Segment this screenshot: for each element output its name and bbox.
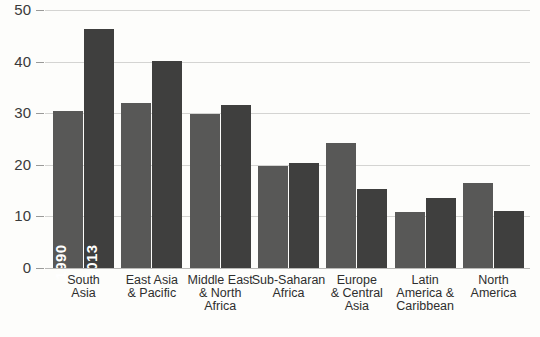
- bar-group: [326, 10, 387, 268]
- bar-group: [121, 10, 182, 268]
- y-axis-tick-label: 0: [0, 260, 31, 275]
- bar-1990: [121, 103, 151, 268]
- bar-chart: 0102030405019902013 SouthAsiaEast Asia& …: [0, 0, 540, 337]
- plot-area: 0102030405019902013: [45, 10, 530, 268]
- y-tick-mark-0: [36, 268, 44, 269]
- bar-group: [258, 10, 319, 268]
- y-tick-mark-50: [36, 10, 44, 11]
- bar-group: 19902013: [53, 10, 114, 268]
- y-axis-tick-label: 30: [0, 105, 31, 120]
- y-tick-mark-20: [36, 165, 44, 166]
- bar-1990: [326, 143, 356, 268]
- bar-1990: 1990: [53, 111, 83, 268]
- category-label-line: Caribbean: [370, 300, 480, 313]
- category-label-line: America: [439, 287, 540, 300]
- y-tick-mark-10: [36, 216, 44, 217]
- bar-1990: [258, 166, 288, 268]
- x-axis-line: [45, 268, 530, 269]
- y-axis-tick-label: 50: [0, 2, 31, 17]
- y-tick-mark-30: [36, 113, 44, 114]
- bar-2013: [221, 105, 251, 268]
- bar-group: [190, 10, 251, 268]
- bar-2013: [357, 189, 387, 268]
- y-axis-tick-label: 20: [0, 157, 31, 172]
- bar-group: [395, 10, 456, 268]
- bar-2013: [494, 211, 524, 268]
- bar-group: [463, 10, 524, 268]
- bar-2013: [426, 198, 456, 268]
- bar-1990: [463, 183, 493, 268]
- category-label-line: Africa: [165, 300, 275, 313]
- bar-2013: [152, 61, 182, 268]
- bar-2013: [289, 163, 319, 268]
- y-tick-mark-40: [36, 62, 44, 63]
- bar-1990: [190, 114, 220, 268]
- bar-2013: 2013: [84, 29, 114, 268]
- category-label: NorthAmerica: [439, 274, 540, 300]
- y-axis-tick-label: 10: [0, 208, 31, 223]
- y-axis-tick-label: 40: [0, 54, 31, 69]
- bar-1990: [395, 212, 425, 268]
